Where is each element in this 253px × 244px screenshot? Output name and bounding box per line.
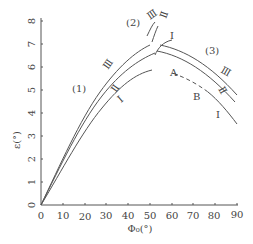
- svg-text:50: 50: [144, 210, 157, 221]
- label-II-1: Ⅱ: [109, 82, 122, 94]
- region-1-curves: [41, 45, 155, 205]
- label-I-2: Ⅰ: [170, 30, 174, 41]
- svg-text:20: 20: [79, 211, 92, 222]
- svg-text:90: 90: [231, 209, 244, 220]
- label-I-1: Ⅰ: [115, 94, 125, 105]
- svg-text:7: 7: [26, 41, 37, 47]
- svg-text:40: 40: [122, 210, 135, 221]
- chart: 0 1 2 3 4 5 6 7 8 0 10 20 30 40 50 60 70…: [0, 0, 253, 244]
- svg-text:8: 8: [26, 18, 37, 24]
- svg-text:30: 30: [100, 210, 113, 221]
- curve-I-3: [172, 73, 237, 124]
- region-2-curves: [147, 22, 172, 55]
- curve-III-2: [147, 22, 155, 36]
- label-III-1: Ⅲ: [101, 57, 116, 72]
- svg-text:4: 4: [26, 110, 37, 116]
- svg-text:2: 2: [26, 156, 37, 162]
- svg-text:0: 0: [38, 210, 44, 221]
- curve-II-2: [152, 26, 158, 42]
- label-III-3: Ⅲ: [219, 64, 233, 79]
- region-1-label: (1): [72, 83, 86, 94]
- point-A-label: A: [169, 67, 178, 78]
- x-axis-label: Φ₀(°): [127, 223, 152, 234]
- svg-text:60: 60: [166, 210, 179, 221]
- svg-text:0: 0: [26, 202, 37, 208]
- svg-text:10: 10: [57, 210, 70, 221]
- svg-text:5: 5: [26, 87, 37, 93]
- region-3-label: (3): [205, 45, 219, 56]
- curve-I-1: [41, 70, 152, 205]
- svg-text:1: 1: [26, 179, 37, 185]
- curve-I-3-dashed: [180, 76, 208, 92]
- svg-text:3: 3: [26, 133, 37, 139]
- label-II-2: Ⅱ: [158, 9, 171, 19]
- label-I-3: Ⅰ: [216, 109, 220, 120]
- point-B-label: B: [193, 91, 200, 102]
- curve-III-1: [41, 45, 150, 205]
- x-tick-labels: 0 10 20 30 40 50 60 70 80 90: [38, 209, 244, 222]
- region-2-label: (2): [126, 17, 140, 28]
- svg-text:80: 80: [208, 210, 221, 221]
- y-axis-label: ε(°): [11, 131, 22, 149]
- svg-text:6: 6: [26, 64, 37, 70]
- svg-text:70: 70: [187, 210, 200, 221]
- y-tick-labels: 0 1 2 3 4 5 6 7 8: [26, 18, 37, 208]
